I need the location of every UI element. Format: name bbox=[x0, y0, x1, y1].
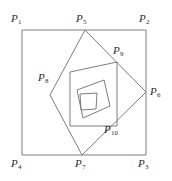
vertex-label-p6: P6 bbox=[150, 86, 160, 97]
vertex-label-base: P bbox=[113, 44, 120, 56]
third-square bbox=[70, 62, 117, 126]
figure-canvas bbox=[0, 0, 172, 181]
vertex-label-subscript: 8 bbox=[45, 77, 49, 85]
fifth-square bbox=[80, 93, 97, 110]
second-square bbox=[50, 30, 146, 155]
fourth-square bbox=[77, 80, 110, 118]
vertex-label-base: P bbox=[11, 157, 18, 169]
vertex-label-subscript: 4 bbox=[18, 163, 22, 171]
polygon-group bbox=[22, 30, 146, 155]
outer-square bbox=[22, 30, 146, 155]
vertex-label-subscript: 9 bbox=[120, 50, 124, 58]
vertex-label-base: P bbox=[150, 85, 157, 97]
nested-squares-figure: P1P2P3P4P5P6P7P8P9P10 bbox=[0, 0, 172, 181]
vertex-label-base: P bbox=[11, 12, 18, 24]
vertex-label-subscript: 7 bbox=[82, 163, 86, 171]
vertex-label-base: P bbox=[76, 12, 83, 24]
vertex-label-p5: P5 bbox=[76, 13, 86, 24]
vertex-label-p7: P7 bbox=[75, 158, 85, 169]
vertex-label-subscript: 2 bbox=[146, 18, 150, 26]
vertex-label-subscript: 10 bbox=[111, 129, 118, 137]
vertex-label-base: P bbox=[104, 123, 111, 135]
vertex-label-p9: P9 bbox=[113, 45, 123, 56]
vertex-label-subscript: 3 bbox=[145, 163, 149, 171]
vertex-label-p1: P1 bbox=[11, 13, 21, 24]
vertex-label-p8: P8 bbox=[38, 72, 48, 83]
vertex-label-p3: P3 bbox=[138, 158, 148, 169]
vertex-label-subscript: 6 bbox=[157, 91, 161, 99]
vertex-label-base: P bbox=[139, 12, 146, 24]
vertex-label-base: P bbox=[75, 157, 82, 169]
vertex-label-subscript: 1 bbox=[18, 18, 22, 26]
vertex-label-base: P bbox=[38, 71, 45, 83]
vertex-label-p2: P2 bbox=[139, 13, 149, 24]
vertex-label-subscript: 5 bbox=[83, 18, 87, 26]
vertex-label-base: P bbox=[138, 157, 145, 169]
vertex-label-p10: P10 bbox=[104, 124, 118, 135]
vertex-label-p4: P4 bbox=[11, 158, 21, 169]
